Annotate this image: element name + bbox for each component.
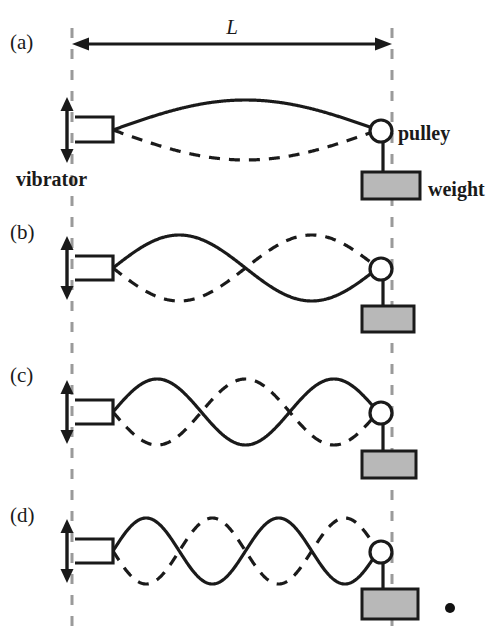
wave-dashed-c <box>113 379 378 445</box>
panel-b: (b) <box>10 220 414 332</box>
vibrator-motion-arrow-down-b <box>61 286 74 300</box>
panel-c: (c) <box>10 363 416 478</box>
weight-block-d <box>362 589 418 619</box>
vibrator-label: vibrator <box>16 168 87 190</box>
pulley-a <box>370 120 392 142</box>
pulley-c <box>370 402 392 424</box>
length-arrowhead-right <box>375 38 392 51</box>
vibrator-body-d <box>75 539 113 563</box>
figure-canvas: L(a)(b)(c)(d)vibratorpulleyweight <box>0 0 497 626</box>
wave-solid-c <box>113 379 378 445</box>
weight-block-b <box>362 306 414 332</box>
pulley-label: pulley <box>398 122 450 145</box>
wave-dashed-a <box>113 130 378 160</box>
standing-wave-figure: L(a)(b)(c)(d)vibratorpulleyweight <box>0 0 497 626</box>
marker-dot <box>445 603 455 613</box>
wave-dashed-b <box>113 235 378 301</box>
panel-label-d: (d) <box>10 503 35 527</box>
weight-block-a <box>362 172 420 199</box>
panel-label-a: (a) <box>10 30 33 54</box>
wave-solid-d <box>113 518 378 584</box>
weight-label: weight <box>428 178 485 201</box>
weight-block-c <box>362 451 416 478</box>
length-arrowhead-left <box>72 38 89 51</box>
vibrator-motion-arrow-up-d <box>61 519 74 533</box>
panel-label-b: (b) <box>10 220 35 244</box>
vibrator-body-b <box>75 256 113 280</box>
wave-solid-a <box>113 100 378 130</box>
vibrator-body-c <box>75 400 113 424</box>
vibrator-body-a <box>75 117 113 142</box>
pulley-d <box>370 541 392 563</box>
panel-label-c: (c) <box>10 363 33 387</box>
pulley-b <box>370 258 392 280</box>
length-label-L: L <box>225 15 238 39</box>
